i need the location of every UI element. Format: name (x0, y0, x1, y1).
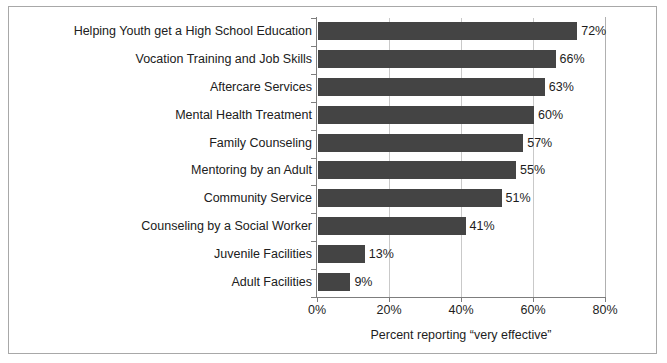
x-axis-tick (317, 297, 318, 302)
bar-value-label: 13% (369, 245, 394, 263)
bar-value-label: 72% (581, 22, 606, 40)
right-axis-line (605, 17, 606, 298)
category-label: Adult Facilities (231, 273, 312, 291)
category-label: Community Service (204, 189, 312, 207)
category-label-row: Mentoring by an Adult (20, 161, 312, 179)
bar-value-label: 41% (470, 217, 495, 235)
bar (318, 217, 466, 235)
category-label-row: Family Counseling (20, 134, 312, 152)
bar-value-label: 66% (560, 50, 585, 68)
x-axis-tick-label: 20% (359, 303, 419, 317)
y-axis-tick (311, 213, 317, 214)
x-axis-tick-label: 60% (503, 303, 563, 317)
bar-value-label: 55% (520, 161, 545, 179)
x-axis-tick-label: 80% (575, 303, 635, 317)
chart-figure: 0%20%40%60%80%72%Helping Youth get a Hig… (0, 0, 667, 363)
bar (318, 134, 523, 152)
y-axis-tick (311, 18, 317, 19)
y-axis-tick (311, 269, 317, 270)
category-label: Helping Youth get a High School Educatio… (74, 22, 312, 40)
category-label-row: Vocation Training and Job Skills (20, 50, 312, 68)
y-axis-tick (311, 241, 317, 242)
category-label: Juvenile Facilities (214, 245, 312, 263)
x-axis-title: Percent reporting “very effective” (317, 328, 605, 342)
bar-value-label: 60% (538, 106, 563, 124)
x-axis-tick (605, 297, 606, 302)
category-label: Mental Health Treatment (175, 106, 312, 124)
x-axis-tick (461, 297, 462, 302)
category-label: Vocation Training and Job Skills (136, 50, 313, 68)
bar (318, 50, 556, 68)
y-axis-tick (311, 158, 317, 159)
bar (318, 161, 516, 179)
bar (318, 78, 545, 96)
y-axis-tick (311, 185, 317, 186)
category-label: Mentoring by an Adult (191, 161, 312, 179)
bar-value-label: 63% (549, 78, 574, 96)
x-axis-tick-label: 40% (431, 303, 491, 317)
bar-value-label: 51% (506, 189, 531, 207)
category-label: Family Counseling (209, 134, 312, 152)
bar (318, 22, 577, 40)
bar (318, 245, 365, 263)
bar (318, 106, 534, 124)
y-axis-tick (311, 46, 317, 47)
y-axis-tick (311, 102, 317, 103)
bar-value-label: 9% (354, 273, 372, 291)
category-label-row: Aftercare Services (20, 78, 312, 96)
bar (318, 273, 350, 291)
bar-value-label: 57% (527, 134, 552, 152)
y-axis-tick (311, 297, 317, 298)
category-label-row: Mental Health Treatment (20, 106, 312, 124)
x-axis-tick (533, 297, 534, 302)
category-label-row: Community Service (20, 189, 312, 207)
y-axis-tick (311, 74, 317, 75)
category-label-row: Juvenile Facilities (20, 245, 312, 263)
category-label: Aftercare Services (210, 78, 312, 96)
category-label-row: Adult Facilities (20, 273, 312, 291)
category-label-row: Helping Youth get a High School Educatio… (20, 22, 312, 40)
category-label: Counseling by a Social Worker (141, 217, 312, 235)
x-axis-tick (389, 297, 390, 302)
y-axis-tick (311, 130, 317, 131)
x-axis-tick-label: 0% (287, 303, 347, 317)
category-label-row: Counseling by a Social Worker (20, 217, 312, 235)
bar (318, 189, 502, 207)
